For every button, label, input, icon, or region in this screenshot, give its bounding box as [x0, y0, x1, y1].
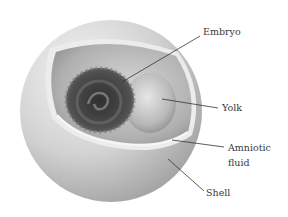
label-amniotic-fluid-line2: fluid — [228, 157, 250, 168]
amniotic-egg-diagram: Embryo Yolk Amniotic fluid Shell — [0, 0, 288, 217]
label-yolk: Yolk — [222, 102, 242, 113]
label-amniotic-fluid-line1: Amniotic — [228, 142, 271, 153]
label-embryo: Embryo — [203, 26, 241, 37]
embryo — [66, 68, 134, 132]
egg-illustration — [0, 0, 288, 217]
label-shell: Shell — [206, 187, 230, 198]
